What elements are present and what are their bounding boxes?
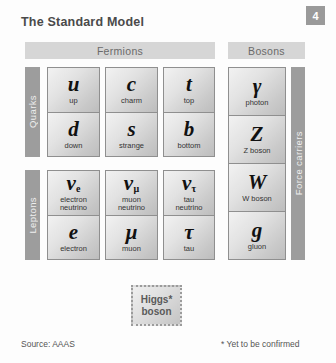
particle-cell[interactable]: s strange [106,112,157,157]
particle-symbol-subscript: τ [192,183,197,194]
particle-name-line2: neutrino [118,204,145,212]
particle-symbol: Z [251,124,264,145]
particle-cell[interactable]: e electron [48,215,99,260]
higgs-label-line2: boson [142,306,172,318]
particle-symbol: νe [66,173,80,194]
particle-name: electron [60,245,87,253]
particle-group-leptons-gen1: νe electron neutrino e electron [47,170,100,260]
section-header-bosons: Bosons [228,42,305,59]
particle-name-line1: charm [121,96,142,105]
particle-symbol: s [127,119,135,140]
particle-name-line1: W boson [242,194,272,203]
row-label-leptons-text: Leptons [27,197,38,234]
particle-name: electron neutrino [60,196,87,213]
particle-name: up [69,97,77,105]
row-label-force-carriers-text: Force carriers [293,131,304,195]
particle-cell[interactable]: d down [48,112,99,157]
particle-name: Z boson [243,147,270,155]
particle-symbol-text: W [248,170,267,194]
confirmation-note: * Yet to be confirmed [221,339,299,349]
particle-name-line1: Z boson [243,146,270,155]
particle-cell[interactable]: νe electron neutrino [48,171,99,215]
particle-name: charm [121,97,142,105]
particle-name-line2: neutrino [60,204,87,212]
particle-name-line1: down [65,141,83,150]
particle-symbol-text: ν [66,171,75,195]
particle-group-leptons-gen3: ντ tau neutrino τ tau [163,170,215,260]
particle-symbol-text: γ [253,74,262,98]
particle-symbol-text: b [184,117,195,141]
particle-name: gluon [248,243,266,251]
particle-symbol-text: s [127,117,135,141]
particle-name: tau neutrino [175,196,202,213]
particle-name: bottom [178,142,201,150]
particle-symbol: μ [126,222,138,243]
particle-symbol: ντ [182,173,196,194]
row-label-force-carriers: Force carriers [291,67,305,260]
particle-cell[interactable]: ντ tau neutrino [164,171,214,215]
particle-symbol-subscript: μ [133,183,139,194]
particle-name: muon [122,245,141,253]
particle-symbol-subscript: e [76,183,80,194]
particle-cell[interactable]: μ muon [106,215,157,260]
particle-symbol-text: τ [184,220,193,244]
particle-name: photon [246,99,269,107]
row-label-quarks: Quarks [25,67,40,157]
particle-cell[interactable]: c charm [106,68,157,112]
particle-symbol-text: ν [182,171,191,195]
particle-name-line1: tau [184,244,194,253]
page-number-badge: 4 [306,6,325,25]
particle-symbol-text: c [127,72,136,96]
particle-symbol-text: u [68,72,80,96]
particle-name-line1: photon [246,98,269,107]
particle-name-line1: bottom [178,141,201,150]
particle-symbol: W [248,172,267,193]
particle-cell[interactable]: νμ muon neutrino [106,171,157,215]
particle-group-quarks-gen1: u up d down [47,67,100,157]
section-header-fermions-label: Fermions [97,45,143,57]
particle-group-quarks-gen2: c charm s strange [105,67,158,157]
particle-group-quarks-gen3: t top b bottom [163,67,215,157]
particle-name-line1: gluon [248,242,266,251]
particle-cell[interactable]: g gluon [229,211,285,259]
particle-name-line1: electron [60,244,87,253]
particle-name: down [65,142,83,150]
particle-cell[interactable]: γ photon [229,68,285,115]
source-note: Source: AAAS [21,339,75,349]
particle-symbol: γ [253,76,262,97]
particle-symbol-text: μ [126,220,138,244]
particle-cell[interactable]: b bottom [164,112,214,157]
particle-symbol: u [68,74,80,95]
particle-name: top [184,97,194,105]
particle-symbol-text: e [69,220,78,244]
particle-group-leptons-gen2: νμ muon neutrino μ muon [105,170,158,260]
particle-cell[interactable]: t top [164,68,214,112]
particle-cell-higgs[interactable]: Higgs* boson [131,285,182,326]
particle-cell[interactable]: u up [48,68,99,112]
particle-symbol: νμ [124,173,139,194]
particle-cell[interactable]: τ tau [164,215,214,260]
particle-cell[interactable]: W W boson [229,163,285,211]
particle-name-line1: up [69,96,77,105]
particle-name-line1: strange [119,141,144,150]
particle-symbol: c [127,74,136,95]
particle-name: W boson [242,195,272,203]
section-header-bosons-label: Bosons [248,45,285,57]
row-label-quarks-text: Quarks [27,95,38,128]
particle-symbol: d [68,119,79,140]
particle-name-line1: muon [122,244,141,253]
particle-symbol: e [69,222,78,243]
page-title: The Standard Model [21,15,144,29]
particle-name: muon neutrino [118,196,145,213]
section-header-fermions: Fermions [25,42,215,59]
particle-symbol: t [186,74,192,95]
higgs-label-line1: Higgs* [141,294,173,306]
particle-symbol-text: g [252,218,263,242]
particle-symbol: τ [184,222,193,243]
particle-name: strange [119,142,144,150]
particle-group-bosons: γ photon Z Z boson W W boson g gluon [228,67,286,260]
row-label-leptons: Leptons [25,170,40,260]
particle-symbol-text: t [186,72,192,96]
particle-symbol: b [184,119,195,140]
particle-cell[interactable]: Z Z boson [229,115,285,163]
